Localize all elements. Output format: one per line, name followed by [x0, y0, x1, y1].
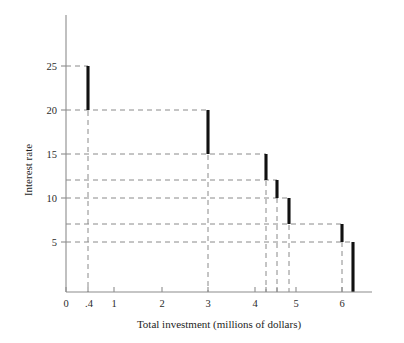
x-tick-label-5: 5: [293, 298, 298, 309]
x-tick-label-2: 2: [159, 298, 164, 309]
y-tick-label-25: 25: [47, 61, 58, 72]
y-tick-label-10: 10: [47, 193, 58, 204]
y-tick-label-5: 5: [52, 237, 57, 248]
x-tick-label-6: 6: [339, 298, 344, 309]
y-tick-labels: 25 20 15 10 5: [47, 61, 58, 248]
x-tick-label-1: 1: [111, 298, 116, 309]
step-bars: [88, 66, 353, 292]
y-tick-marks: [61, 66, 66, 242]
x-tick-marks: [66, 287, 342, 292]
x-axis-title: Total investment (millions of dollars): [137, 318, 302, 331]
x-tick-label-0: 0: [63, 298, 68, 309]
x-tick-label-4: 4: [252, 298, 258, 309]
y-axis-title: Interest rate: [22, 144, 34, 196]
x-tick-label-3: 3: [205, 298, 210, 309]
x-tick-label-0.4: .4: [85, 298, 94, 309]
investment-demand-chart: 25 20 15 10 5 0 .4 1 2 3 4 5 6 Total inv…: [0, 0, 404, 343]
y-tick-label-15: 15: [47, 149, 58, 160]
chart-canvas: 25 20 15 10 5 0 .4 1 2 3 4 5 6 Total inv…: [0, 0, 404, 343]
y-tick-label-20: 20: [47, 105, 58, 116]
x-tick-labels: 0 .4 1 2 3 4 5 6: [63, 298, 344, 309]
vertical-gridlines: [88, 66, 353, 292]
